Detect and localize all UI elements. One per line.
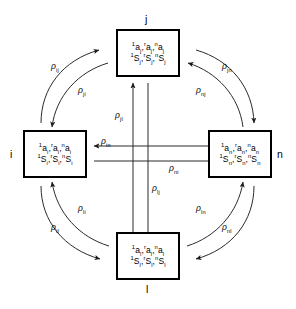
edge-label-li: ρli (78, 203, 86, 213)
edge-arc-il (41, 186, 100, 259)
node-i-row2: 1Si,rSi,nSi (37, 154, 72, 165)
node-box-j[interactable]: 1aj,raj,naj 1Sj,rSj,nSj (116, 29, 180, 77)
edge-label-lj: ρlj (152, 183, 160, 193)
edge-label-nj: ρnj (196, 85, 206, 95)
edge-label-ln: ρln (196, 203, 206, 213)
node-label-j: j (145, 13, 147, 25)
node-l-row1: 1al,ral,nal (132, 245, 164, 256)
node-box-l[interactable]: 1al,ral,nal 1Sl,rSl,nSl (116, 232, 180, 280)
transfer-diagram: 1aj,raj,naj 1Sj,rSj,nSj j 1ai,rai,nai 1S… (0, 0, 296, 309)
edge-label-ji: ρji (78, 85, 86, 95)
edge-label-ij: ρij (51, 61, 59, 71)
edge-label-jn: ρjn (222, 61, 232, 71)
node-label-l: l (146, 283, 148, 295)
node-n-row1: 1an,ran,nan (221, 143, 259, 154)
edge-label-in: ρin (101, 136, 111, 146)
node-j-row2: 1Sj,rSj,nSj (130, 53, 165, 64)
edge-label-jl: ρjl (115, 110, 123, 120)
edge-arc-nj (188, 63, 243, 127)
node-l-row2: 1Sl,rSl,nSl (130, 256, 165, 267)
node-i-row1: 1ai,rai,nai (39, 143, 71, 154)
node-box-n[interactable]: 1an,ran,nan 1Sn,rSn,nSn (208, 130, 272, 178)
edge-label-ni: ρni (169, 163, 179, 173)
node-label-n: n (277, 148, 283, 160)
node-label-i: i (10, 148, 12, 160)
edge-label-nl: ρnl (222, 222, 232, 232)
edge-label-il: ρil (51, 222, 59, 232)
node-n-row2: 1Sn,rSn,nSn (220, 154, 261, 165)
node-box-i[interactable]: 1ai,rai,nai 1Si,rSi,nSi (23, 130, 87, 178)
node-j-row1: 1aj,raj,naj (132, 42, 164, 53)
